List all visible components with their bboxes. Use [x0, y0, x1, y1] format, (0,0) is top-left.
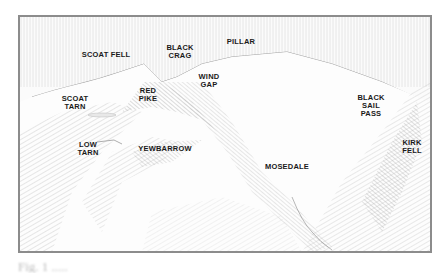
label-kirk-fell: KIRK FELL: [400, 139, 424, 155]
label-mosedale: MOSEDALE: [262, 163, 312, 171]
label-red-pike: RED PIKE: [136, 87, 160, 103]
label-yewbarrow: YEWBARROW: [138, 145, 192, 153]
label-scoat-tarn: SCOAT TARN: [60, 95, 90, 111]
label-pillar: PILLAR: [224, 38, 258, 46]
label-black-crag: BLACK CRAG: [166, 44, 194, 60]
label-low-tarn: LOW TARN: [74, 141, 102, 157]
label-wind-gap: WIND GAP: [196, 73, 222, 89]
label-scoat-fell: SCOAT FELL: [80, 51, 132, 59]
figure-caption: Fig. 1 .....: [18, 259, 318, 273]
label-black-sail-pass: BLACK SAIL PASS: [356, 94, 386, 118]
